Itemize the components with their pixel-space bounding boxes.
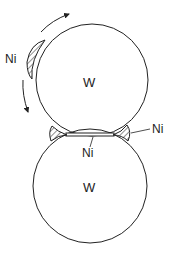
lower-w-label: W — [83, 180, 96, 195]
ni-neck-label: Ni — [82, 146, 93, 160]
ni-neck-film — [66, 133, 114, 136]
diagram-canvas: W W Ni Ni Ni — [0, 0, 170, 254]
ni-right-label: Ni — [152, 122, 163, 136]
upper-w-label: W — [83, 75, 96, 90]
ni-left-label: Ni — [5, 52, 16, 66]
ni-right-leader — [131, 129, 150, 133]
arrow-up-icon — [41, 14, 69, 32]
arrow-down-icon — [23, 80, 28, 112]
